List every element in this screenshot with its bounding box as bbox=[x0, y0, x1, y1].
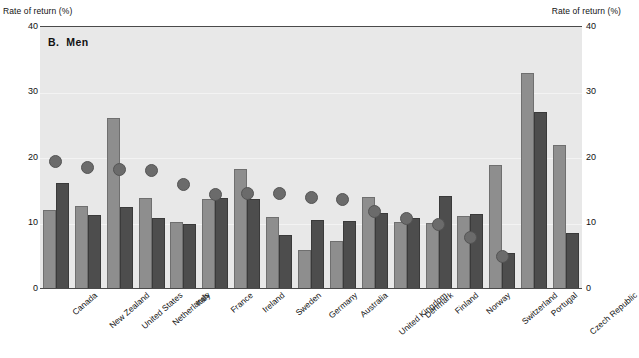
plot-area bbox=[40, 26, 582, 289]
bar-light bbox=[521, 73, 534, 289]
bar-group bbox=[107, 27, 133, 289]
bar-dark bbox=[534, 112, 547, 289]
x-label: Ireland bbox=[261, 290, 287, 315]
bar-dark bbox=[407, 218, 420, 289]
bar-group bbox=[234, 27, 260, 289]
x-label: Germany bbox=[327, 290, 360, 320]
bar-light bbox=[43, 210, 56, 289]
bar-light bbox=[489, 165, 502, 289]
dot-marker bbox=[305, 191, 318, 204]
plot-inner bbox=[40, 27, 582, 289]
bar-dark bbox=[311, 220, 324, 289]
bar-light bbox=[553, 145, 566, 289]
bar-dark bbox=[247, 199, 260, 289]
x-axis-labels: CanadaNew ZealandUnited StatesNetherland… bbox=[40, 290, 582, 358]
bar-dark bbox=[56, 183, 69, 289]
y-tick-right-40: 40 bbox=[586, 22, 616, 31]
bar-light bbox=[75, 206, 88, 289]
x-label: Norway bbox=[484, 290, 512, 316]
bar-group bbox=[457, 27, 483, 289]
y-tick-left-20: 20 bbox=[8, 153, 38, 162]
bar-group bbox=[362, 27, 388, 289]
panel-title: B.Men bbox=[48, 36, 89, 48]
dot-marker bbox=[464, 231, 477, 244]
bar-dark bbox=[120, 207, 133, 289]
x-label: Finland bbox=[452, 290, 480, 316]
y-tick-left-10: 10 bbox=[8, 218, 38, 227]
dot-marker bbox=[209, 188, 222, 201]
dot-marker bbox=[400, 212, 413, 225]
bar-dark bbox=[215, 198, 228, 289]
x-label: Australia bbox=[358, 290, 390, 319]
bar-group bbox=[394, 27, 420, 289]
bar-light bbox=[457, 216, 470, 289]
dot-marker bbox=[145, 164, 158, 177]
bar-light bbox=[298, 250, 311, 289]
y-tick-right-0: 0 bbox=[586, 284, 616, 293]
bar-light bbox=[394, 222, 407, 289]
bar-group bbox=[298, 27, 324, 289]
y-tick-right-20: 20 bbox=[586, 153, 616, 162]
x-label: Czech Republic bbox=[588, 290, 639, 336]
y-axis-title-right: Rate of return (%) bbox=[552, 6, 621, 16]
x-label: Canada bbox=[70, 290, 99, 317]
bar-light bbox=[426, 223, 439, 289]
dot-marker bbox=[177, 178, 190, 191]
bar-group bbox=[521, 27, 547, 289]
y-axis-title-left: Rate of return (%) bbox=[3, 6, 72, 16]
bar-dark bbox=[566, 233, 579, 289]
bar-light bbox=[266, 217, 279, 289]
bar-light bbox=[330, 241, 343, 289]
bar-dark bbox=[470, 214, 483, 289]
y-tick-right-10: 10 bbox=[586, 218, 616, 227]
y-tick-left-0: 0 bbox=[8, 284, 38, 293]
bar-group bbox=[553, 27, 579, 289]
bar-group bbox=[75, 27, 101, 289]
bar-dark bbox=[439, 196, 452, 289]
bar-group bbox=[139, 27, 165, 289]
bar-light bbox=[107, 118, 120, 289]
bar-dark bbox=[152, 218, 165, 289]
dot-marker bbox=[241, 187, 254, 200]
bar-group bbox=[426, 27, 452, 289]
bar-dark bbox=[279, 235, 292, 289]
y-tick-left-40: 40 bbox=[8, 22, 38, 31]
y-tick-left-30: 30 bbox=[8, 87, 38, 96]
dot-marker bbox=[113, 163, 126, 176]
dot-marker bbox=[81, 161, 94, 174]
bar-group bbox=[266, 27, 292, 289]
bar-group bbox=[170, 27, 196, 289]
x-label: France bbox=[229, 290, 255, 315]
bar-dark bbox=[343, 221, 356, 289]
bar-group bbox=[330, 27, 356, 289]
x-label: Sweden bbox=[294, 290, 324, 318]
bar-dark bbox=[183, 224, 196, 289]
panel-letter: B. bbox=[48, 36, 59, 48]
bar-light bbox=[139, 198, 152, 289]
dot-marker bbox=[432, 218, 445, 231]
bar-dark bbox=[375, 213, 388, 289]
bar-light bbox=[170, 222, 183, 289]
bar-group bbox=[202, 27, 228, 289]
dot-marker bbox=[496, 250, 509, 263]
panel-name: Men bbox=[66, 36, 88, 48]
bar-light bbox=[202, 199, 215, 289]
dot-marker bbox=[273, 187, 286, 200]
y-tick-right-30: 30 bbox=[586, 87, 616, 96]
bar-dark bbox=[88, 215, 101, 289]
